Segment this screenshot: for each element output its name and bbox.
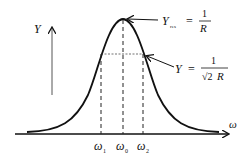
x-axis-label: ω <box>229 118 237 130</box>
svg-text:ω: ω <box>116 139 124 153</box>
svg-text:res: res <box>170 24 176 29</box>
svg-text:1: 1 <box>211 55 216 66</box>
svg-text:R: R <box>199 22 207 34</box>
tick-omega2: ω 2 <box>137 139 149 154</box>
svg-text:2: 2 <box>146 148 149 154</box>
svg-text:ω: ω <box>137 139 145 153</box>
svg-text:0: 0 <box>125 148 128 154</box>
svg-text:Y: Y <box>162 14 170 28</box>
svg-text:=: = <box>188 62 195 76</box>
tick-omega1: ω 1 <box>94 139 106 154</box>
svg-text:1: 1 <box>103 148 106 154</box>
svg-text:√2: √2 <box>202 71 213 82</box>
peak-pointer-arrow <box>128 19 158 20</box>
svg-text:1: 1 <box>202 8 207 19</box>
tick-omega0: ω 0 <box>116 139 128 154</box>
half-power-annotation: Y = 1 √2 R <box>175 55 228 82</box>
svg-text:ω: ω <box>94 139 102 153</box>
svg-text:=: = <box>186 14 193 28</box>
resonance-diagram: ω Y ω 1 ω 0 ω 2 Y res = 1 R Y = 1 √2 R <box>0 0 248 162</box>
y-axis-label: Y <box>34 22 42 36</box>
peak-annotation: Y res = 1 R <box>162 8 211 34</box>
svg-text:R: R <box>216 70 224 82</box>
half-power-pointer-arrow <box>147 56 174 67</box>
svg-text:Y: Y <box>175 62 183 76</box>
